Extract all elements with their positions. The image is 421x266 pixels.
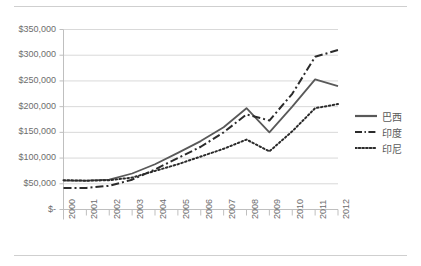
- x-tick-label-1: 2001: [90, 198, 99, 218]
- y-tick-label-4: $200,000: [4, 102, 56, 111]
- line-chart-figure: $-$50,000$100,000$150,000$200,000$250,00…: [0, 0, 421, 266]
- legend-item-indonesia: 印尼: [355, 140, 419, 156]
- x-tick-label-8: 2008: [251, 198, 260, 218]
- legend-item-india: 印度: [355, 124, 419, 140]
- legend-label-indonesia: 印尼: [382, 141, 402, 156]
- y-tick-label-0: $-: [4, 205, 56, 214]
- x-tick-label-0: 2000: [68, 198, 77, 218]
- x-tick-label-10: 2010: [296, 198, 305, 218]
- y-tick-label-3: $150,000: [4, 127, 56, 136]
- legend-line-dashdot-icon: [355, 127, 377, 137]
- legend-line-solid-icon: [355, 111, 377, 121]
- y-tick-label-5: $250,000: [4, 76, 56, 85]
- data-series-group: [64, 50, 339, 188]
- x-tick-label-4: 2004: [159, 198, 168, 218]
- legend-item-brazil: 巴西: [355, 108, 419, 124]
- legend-label-brazil: 巴西: [382, 109, 402, 124]
- x-tick-label-6: 2006: [205, 198, 214, 218]
- gridlines-group: [60, 30, 339, 210]
- y-tick-label-6: $300,000: [4, 50, 56, 59]
- legend-line-dotted-icon: [355, 143, 377, 153]
- series-line-1: [64, 50, 339, 188]
- series-line-0: [64, 79, 339, 180]
- chart-legend: 巴西 印度 印尼: [355, 108, 419, 156]
- series-line-2: [64, 104, 339, 181]
- axis-group: [64, 30, 339, 220]
- y-tick-label-2: $100,000: [4, 153, 56, 162]
- x-tick-label-7: 2007: [228, 198, 237, 218]
- y-tick-label-1: $50,000: [4, 179, 56, 188]
- x-tick-label-12: 2012: [342, 198, 351, 218]
- x-tick-label-2: 2002: [113, 198, 122, 218]
- legend-label-india: 印度: [382, 125, 402, 140]
- x-tick-label-3: 2003: [136, 198, 145, 218]
- x-tick-label-11: 2011: [319, 199, 328, 218]
- y-tick-label-7: $350,000: [4, 25, 56, 34]
- x-tick-label-9: 2009: [273, 198, 282, 218]
- x-tick-label-5: 2005: [182, 198, 191, 218]
